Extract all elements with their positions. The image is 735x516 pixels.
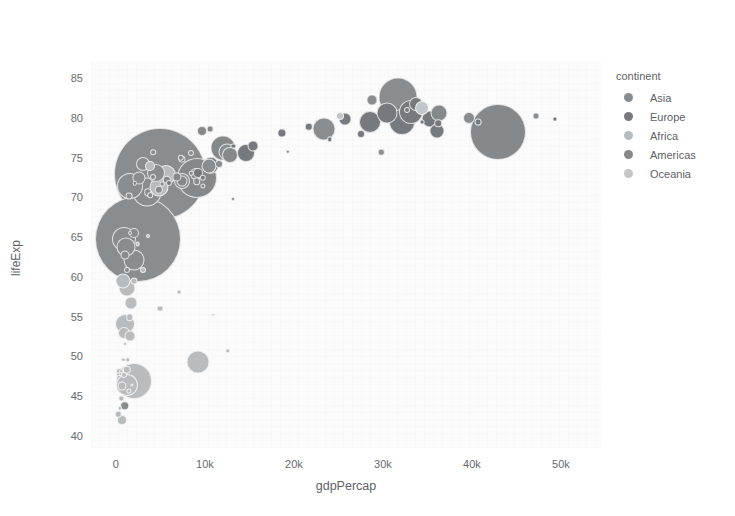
legend-item-europe[interactable]: Europe [616,108,728,125]
y-tick-label: 65 [53,231,83,243]
data-point-americas[interactable] [470,104,526,160]
data-point-europe[interactable] [420,120,425,125]
data-point-africa[interactable] [125,357,131,363]
data-point-americas[interactable] [124,267,130,273]
data-point-asia[interactable] [125,192,132,199]
y-tick-label: 40 [53,430,83,442]
legend-items[interactable]: AsiaEuropeAfricaAmericasOceania [616,89,728,182]
legend-item-oceania[interactable]: Oceania [616,165,728,182]
y-tick-label: 50 [53,350,83,362]
data-point-americas[interactable] [431,104,448,121]
x-tick-label: 40k [463,458,481,470]
data-point-africa[interactable] [187,350,210,373]
data-point-africa[interactable] [126,313,134,321]
data-point-europe[interactable] [327,136,333,142]
data-point-oceania[interactable] [336,112,344,120]
legend-item-americas[interactable]: Americas [616,146,728,163]
data-point-africa[interactable] [125,296,138,309]
data-point-americas[interactable] [207,126,214,133]
data-point-africa[interactable] [146,234,150,238]
data-point-oceania[interactable] [415,101,429,115]
data-point-africa[interactable] [125,331,136,342]
data-point-africa[interactable] [145,161,155,171]
legend-swatch-icon [624,131,633,140]
x-tick-label: 0 [113,458,119,470]
data-point-africa[interactable] [117,382,126,391]
x-tick-label: 10k [196,458,214,470]
legend-item-label: Asia [650,92,671,104]
data-point-europe[interactable] [434,119,442,127]
x-tick-label: 20k [285,458,303,470]
legend-item-label: Africa [650,130,678,142]
data-point-americas[interactable] [197,126,207,136]
x-axis-title: gdpPercap [316,479,376,493]
data-point-europe[interactable] [357,130,365,138]
data-point-americas[interactable] [222,147,238,163]
data-point-asia[interactable] [121,251,130,260]
data-point-asia[interactable] [150,150,156,156]
legend-swatch-icon [624,150,633,159]
data-point-asia[interactable] [532,113,539,120]
data-point-europe[interactable] [247,140,258,151]
x-tick-label: 50k [552,458,570,470]
data-point-americas[interactable] [128,231,132,235]
data-point-africa[interactable] [123,342,127,346]
legend-item-africa[interactable]: Africa [616,127,728,144]
y-tick-label: 75 [53,152,83,164]
data-point-europe[interactable] [166,180,172,186]
data-point-africa[interactable] [135,241,140,246]
data-point-africa[interactable] [212,313,216,317]
data-point-asia[interactable] [202,159,217,174]
data-point-africa[interactable] [116,373,120,377]
data-point-africa[interactable] [157,305,164,312]
data-point-asia[interactable] [188,150,194,156]
y-tick-label: 55 [53,311,83,323]
data-point-europe[interactable] [404,107,410,113]
y-tick-label: 45 [53,390,83,402]
data-point-americas[interactable] [160,181,165,186]
data-point-americas[interactable] [231,197,235,201]
legend-item-label: Americas [650,149,696,161]
y-tick-label: 70 [53,191,83,203]
y-axis-title: lifeExp [9,240,23,276]
data-point-africa[interactable] [116,274,131,289]
data-point-africa[interactable] [177,290,182,295]
data-point-americas[interactable] [147,192,153,198]
data-point-americas[interactable] [150,174,156,180]
data-point-africa[interactable] [131,278,138,285]
legend-swatch-icon [624,112,633,121]
legend-swatch-icon [624,93,633,102]
legend[interactable]: continent AsiaEuropeAfricaAmericasOceani… [616,70,728,184]
data-point-asia[interactable] [215,160,223,168]
legend-item-label: Oceania [650,168,691,180]
y-tick-label: 80 [53,112,83,124]
data-point-africa[interactable] [225,348,231,354]
data-point-africa[interactable] [140,267,146,273]
data-point-europe[interactable] [475,119,482,126]
legend-item-label: Europe [650,111,685,123]
legend-item-asia[interactable]: Asia [616,89,728,106]
data-point-europe[interactable] [377,103,398,124]
x-tick-label: 30k [374,458,392,470]
data-point-africa[interactable] [121,372,127,378]
legend-swatch-icon [624,169,633,178]
legend-title: continent [616,70,728,82]
data-point-africa[interactable] [119,369,123,373]
y-tick-label: 60 [53,271,83,283]
y-tick-label: 85 [53,72,83,84]
data-point-asia[interactable] [366,95,377,106]
